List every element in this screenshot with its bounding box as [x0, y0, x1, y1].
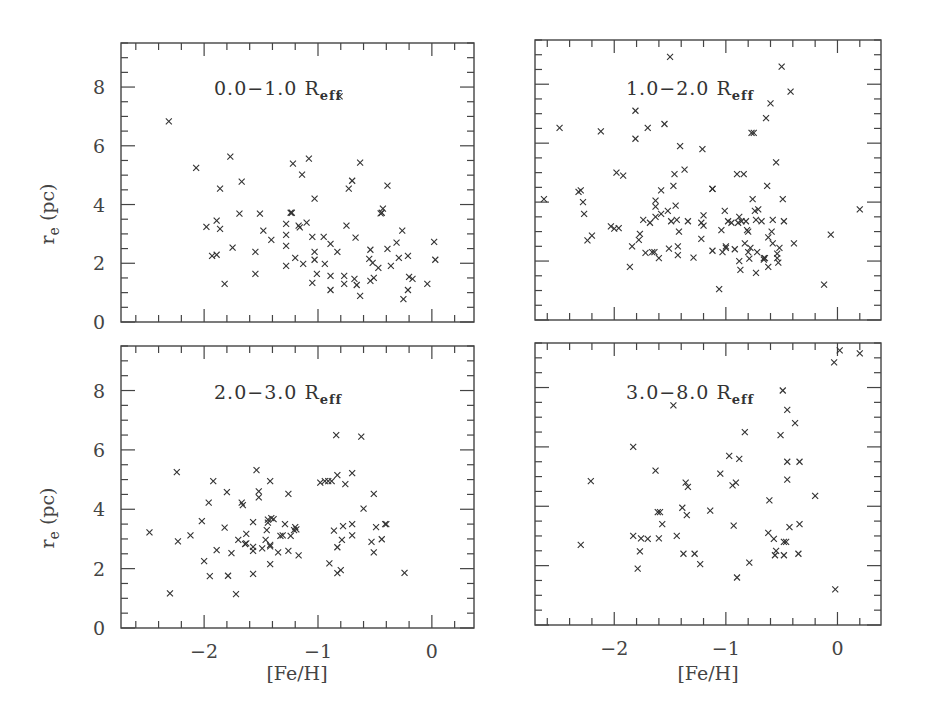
- data-point-x-marker: [405, 287, 411, 293]
- y-tick-label: 2: [93, 252, 105, 274]
- data-point-x-marker: [773, 548, 779, 554]
- data-point-x-marker: [166, 118, 172, 124]
- data-point-x-marker: [781, 552, 787, 558]
- y-tick-label: 4: [93, 498, 105, 520]
- data-point-x-marker: [736, 456, 742, 462]
- data-point-x-marker: [831, 359, 837, 365]
- data-point-x-marker: [304, 220, 310, 226]
- x-axis-label-right: [Fe/H]: [677, 662, 738, 684]
- data-point-x-marker: [638, 535, 644, 541]
- data-point-x-marker: [388, 263, 394, 269]
- data-point-x-marker: [210, 478, 216, 484]
- data-point-x-marker: [795, 551, 801, 557]
- data-point-x-marker: [396, 255, 402, 261]
- data-point-x-marker: [256, 488, 262, 494]
- data-point-x-marker: [716, 286, 722, 292]
- data-point-x-marker: [784, 407, 790, 413]
- data-point-x-marker: [656, 255, 662, 261]
- y-tick-label: 0: [93, 311, 105, 333]
- data-point-x-marker: [828, 232, 834, 238]
- data-point-x-marker: [384, 246, 390, 252]
- data-point-x-marker: [656, 535, 662, 541]
- data-point-x-marker: [334, 249, 340, 255]
- data-point-x-marker: [267, 478, 273, 484]
- data-point-x-marker: [780, 196, 786, 202]
- x-tick-label: 0: [831, 637, 843, 659]
- data-point-x-marker: [383, 521, 389, 527]
- data-point-x-marker: [857, 206, 863, 212]
- data-point-x-marker: [267, 561, 273, 567]
- data-point-x-marker: [776, 245, 782, 251]
- data-point-x-marker: [647, 220, 653, 226]
- data-point-x-marker: [784, 459, 790, 465]
- data-point-x-marker: [322, 478, 328, 484]
- data-point-x-marker: [685, 218, 691, 224]
- data-point-x-marker: [283, 221, 289, 227]
- data-point-x-marker: [222, 281, 228, 287]
- data-point-x-marker: [608, 223, 614, 229]
- data-point-x-marker: [217, 226, 223, 232]
- data-point-x-marker: [227, 154, 233, 160]
- data-point-x-marker: [334, 544, 340, 550]
- data-point-x-marker: [394, 240, 400, 246]
- data-point-x-marker: [658, 187, 664, 193]
- data-point-x-marker: [325, 478, 331, 484]
- data-point-x-marker: [384, 183, 390, 189]
- data-point-x-marker: [299, 172, 305, 178]
- data-point-x-marker: [207, 573, 213, 579]
- data-point-x-marker: [588, 478, 594, 484]
- x-tick-label: −2: [190, 640, 218, 662]
- data-point-x-marker: [432, 257, 438, 263]
- data-point-x-marker: [707, 508, 713, 514]
- data-point-x-marker: [338, 567, 344, 573]
- data-point-x-marker: [288, 533, 294, 539]
- data-point-x-marker: [677, 143, 683, 149]
- y-tick-label: 4: [93, 194, 105, 216]
- data-point-x-marker: [265, 520, 271, 526]
- data-point-x-marker: [328, 273, 334, 279]
- data-point-x-marker: [541, 196, 547, 202]
- data-point-x-marker: [357, 160, 363, 166]
- data-point-x-marker: [753, 217, 759, 223]
- data-point-x-marker: [765, 234, 771, 240]
- data-point-x-marker: [598, 128, 604, 134]
- data-point-x-marker: [613, 170, 619, 176]
- data-point-x-marker: [235, 537, 241, 543]
- panel-title-top-right: 1.0−2.0 Reff: [626, 77, 755, 103]
- data-point-x-marker: [778, 432, 784, 438]
- data-point-x-marker: [720, 249, 726, 255]
- data-point-x-marker: [187, 532, 193, 538]
- data-point-x-marker: [775, 260, 781, 266]
- data-point-x-marker: [821, 282, 827, 288]
- data-point-x-marker: [264, 527, 270, 533]
- data-point-x-marker: [832, 586, 838, 592]
- data-point-x-marker: [668, 218, 674, 224]
- data-point-x-marker: [676, 229, 682, 235]
- data-point-x-marker: [737, 267, 743, 273]
- data-point-x-marker: [632, 136, 638, 142]
- data-point-x-marker: [167, 590, 173, 596]
- data-point-x-marker: [341, 273, 347, 279]
- data-point-x-marker: [349, 470, 355, 476]
- data-point-x-marker: [674, 217, 680, 223]
- data-point-x-marker: [268, 237, 274, 243]
- data-point-x-marker: [673, 203, 679, 209]
- data-point-x-marker: [791, 240, 797, 246]
- data-point-x-marker: [645, 536, 651, 542]
- data-point-x-marker: [333, 432, 339, 438]
- data-point-x-marker: [675, 243, 681, 249]
- data-point-x-marker: [206, 500, 212, 506]
- data-point-x-marker: [349, 178, 355, 184]
- data-point-x-marker: [765, 264, 771, 270]
- data-point-x-marker: [659, 521, 665, 527]
- data-point-x-marker: [770, 240, 776, 246]
- y-axis-label-bottom: re (pc): [36, 487, 62, 548]
- data-point-x-marker: [252, 249, 258, 255]
- data-point-x-marker: [424, 281, 430, 287]
- data-point-x-marker: [812, 493, 818, 499]
- data-point-x-marker: [288, 210, 294, 216]
- data-point-x-marker: [282, 521, 288, 527]
- data-point-x-marker: [239, 179, 245, 185]
- data-point-x-marker: [361, 506, 367, 512]
- y-axis-label-top: re (pc): [36, 183, 62, 244]
